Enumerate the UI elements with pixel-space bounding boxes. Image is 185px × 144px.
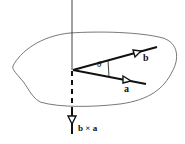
cross-product-label: b × a: [78, 123, 98, 133]
cross-product-diagram: θ b a b × a: [0, 0, 185, 144]
vector-b-arrowhead-icon: [133, 50, 141, 57]
plane-outline: [13, 32, 177, 106]
cross-product-arrowhead-icon: [68, 116, 76, 124]
vector-a-arrowhead-icon: [123, 76, 131, 83]
vector-a: [73, 70, 146, 84]
vector-b-label: b: [143, 52, 149, 63]
angle-label: θ: [97, 59, 102, 69]
vector-a-label: a: [124, 83, 129, 94]
angle-marker: [108, 60, 109, 77]
